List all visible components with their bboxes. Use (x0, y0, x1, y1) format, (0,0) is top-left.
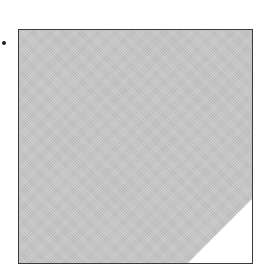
gray-square-figure (18, 29, 253, 264)
bullet-dot-icon (2, 41, 6, 45)
white-corner-triangle (188, 199, 252, 263)
